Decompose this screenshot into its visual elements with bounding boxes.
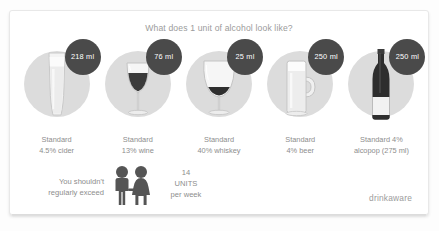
infographic-card: What does 1 unit of alcohol look like? 2…: [9, 10, 429, 215]
infographic-canvas: What does 1 unit of alcohol look like? 2…: [0, 0, 439, 231]
caption-line-1: Standard 4%: [337, 135, 426, 146]
drink-item-cider[interactable]: 218 ml Standard 4.5% cider: [16, 39, 97, 157]
badge-volume: 76 ml: [146, 39, 182, 75]
caption-line-1: Standard: [93, 135, 182, 146]
advice-line-1: You shouldn't: [22, 176, 104, 187]
units-word: UNITS: [158, 178, 214, 189]
drink-caption: Standard 13% wine: [93, 135, 182, 156]
drink-item-wine[interactable]: 76 ml Standard 13% wine: [97, 39, 178, 157]
caption-line-2: 40% whiskey: [174, 146, 263, 157]
units-text: 14 UNITS per week: [158, 167, 214, 200]
drink-item-beer[interactable]: 250 ml Standard 4% beer: [260, 39, 341, 157]
caption-line-2: 4% beer: [256, 146, 345, 157]
drink-caption: Standard 4.5% cider: [12, 135, 101, 156]
drinkaware-logo[interactable]: drinkaware: [369, 193, 412, 203]
drinks-row: 218 ml Standard 4.5% cider: [16, 39, 422, 157]
caption-line-1: Standard: [256, 135, 345, 146]
drink-item-alcopop[interactable]: 250 ml Standard 4% alcopop (275 ml): [341, 39, 422, 157]
footer: You shouldn't regularly exceed 14 UNITS: [10, 163, 428, 213]
units-number: 14: [158, 167, 214, 178]
drink-caption: Standard 4% alcopop (275 ml): [337, 135, 426, 156]
page-title: What does 1 unit of alcohol look like?: [10, 23, 428, 33]
units-period: per week: [158, 189, 214, 200]
couple-icon: [110, 165, 154, 207]
drink-caption: Standard 40% whiskey: [174, 135, 263, 156]
badge-volume: 250 ml: [308, 39, 344, 75]
badge-volume: 25 ml: [227, 39, 263, 75]
drink-caption: Standard 4% beer: [256, 135, 345, 156]
caption-line-1: Standard: [12, 135, 101, 146]
advice-text: You shouldn't regularly exceed: [22, 176, 104, 198]
caption-line-1: Standard: [174, 135, 263, 146]
advice-line-2: regularly exceed: [22, 187, 104, 198]
drink-item-whiskey[interactable]: 25 ml Standard 40% whiskey: [178, 39, 259, 157]
badge-volume: 218 ml: [65, 39, 101, 75]
caption-line-2: 4.5% cider: [12, 146, 101, 157]
caption-line-2: alcopop (275 ml): [337, 146, 426, 157]
caption-line-2: 13% wine: [93, 146, 182, 157]
